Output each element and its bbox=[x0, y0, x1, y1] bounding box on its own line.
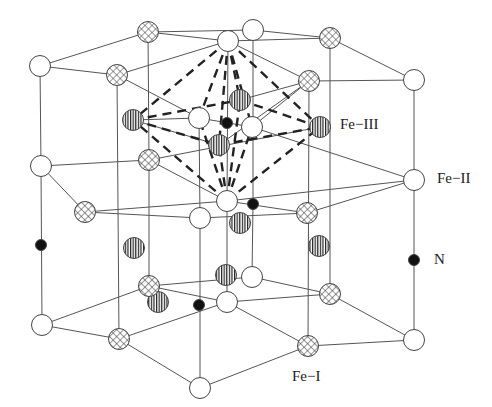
fe-iii-atom bbox=[123, 110, 144, 131]
fe-i-atom bbox=[320, 284, 341, 305]
bond-line bbox=[119, 339, 200, 388]
fe-ii-atom bbox=[32, 315, 53, 336]
bond-line bbox=[40, 32, 148, 66]
fe-ii-atom bbox=[190, 378, 211, 399]
bond-line bbox=[309, 80, 414, 81]
label-n: N bbox=[434, 251, 445, 268]
octahedron-edge bbox=[228, 41, 252, 127]
nitrogen-atom bbox=[36, 240, 47, 251]
fe-ii-atom bbox=[404, 170, 425, 191]
bond-line bbox=[85, 212, 200, 218]
nitrogen-atom bbox=[222, 118, 233, 129]
bond-line bbox=[227, 302, 308, 346]
bond-line bbox=[253, 30, 330, 38]
fe-ii-atom bbox=[404, 70, 425, 91]
bond-line bbox=[227, 294, 330, 302]
label-fe-iii: Fe−III bbox=[340, 116, 378, 133]
fe-iii-atom bbox=[230, 90, 251, 111]
bond-line bbox=[42, 325, 119, 339]
bond-line bbox=[252, 277, 330, 294]
fe-ii-atom bbox=[31, 156, 52, 177]
bond-line bbox=[330, 294, 414, 340]
label-fe-i: Fe−I bbox=[292, 368, 320, 385]
octahedron-edge bbox=[219, 41, 228, 145]
fe-iii-atom bbox=[124, 238, 145, 259]
fe-iii-atom bbox=[230, 213, 251, 234]
bond-line bbox=[308, 340, 414, 346]
bond-line bbox=[117, 41, 228, 75]
bond-line bbox=[148, 32, 228, 41]
fe-i-atom bbox=[138, 22, 159, 43]
bond-line bbox=[117, 75, 119, 339]
bond-line bbox=[40, 66, 117, 75]
nitrogen-atom bbox=[194, 300, 205, 311]
bond-line bbox=[119, 302, 227, 339]
fe-ii-atom bbox=[217, 292, 238, 313]
fe-i-atom bbox=[297, 203, 318, 224]
atom-sites bbox=[30, 20, 425, 399]
bond-line bbox=[227, 180, 414, 201]
fe-ii-atom bbox=[242, 117, 263, 138]
fe-ii-atom bbox=[217, 191, 238, 212]
bond-line bbox=[148, 32, 149, 160]
fe-i-atom bbox=[299, 71, 320, 92]
bond-line bbox=[252, 127, 414, 180]
fe-i-atom bbox=[107, 65, 128, 86]
fe-i-atom bbox=[75, 202, 96, 223]
octahedron-edge bbox=[227, 127, 320, 201]
fe-iii-atom bbox=[209, 135, 230, 156]
fe-ii-atom bbox=[242, 267, 263, 288]
bond-line bbox=[227, 201, 307, 213]
nitrogen-atom bbox=[409, 255, 420, 266]
fe-iii-atom bbox=[309, 236, 330, 257]
fe-i-atom bbox=[320, 28, 341, 49]
fe-i-atom bbox=[139, 150, 160, 171]
bond-line bbox=[228, 38, 330, 41]
fe-i-atom bbox=[109, 329, 130, 350]
fe-i-atom bbox=[139, 276, 160, 297]
bond-line bbox=[228, 41, 309, 81]
fe-ii-atom bbox=[189, 108, 210, 129]
fe-i-atom bbox=[298, 336, 319, 357]
bond-line bbox=[41, 160, 149, 166]
octahedron-edge bbox=[227, 100, 240, 201]
fe-ii-atom bbox=[218, 31, 239, 52]
nitrogen-atom bbox=[248, 199, 259, 210]
bond-line bbox=[148, 30, 253, 32]
fe-ii-atom bbox=[30, 56, 51, 77]
fe-ii-atom bbox=[404, 330, 425, 351]
bond-line bbox=[40, 66, 41, 166]
bond-line bbox=[330, 38, 414, 80]
bond-line bbox=[219, 81, 309, 145]
crystal-lattice-svg bbox=[0, 0, 492, 407]
bond-line bbox=[307, 180, 414, 213]
bond-line bbox=[42, 286, 149, 325]
fe-ii-atom bbox=[243, 20, 264, 41]
fe-iii-atom bbox=[216, 265, 237, 286]
label-fe-ii: Fe−II bbox=[437, 170, 470, 187]
bond-line bbox=[200, 213, 307, 218]
fe-ii-atom bbox=[190, 208, 211, 229]
fe-iii-atom bbox=[310, 117, 331, 138]
crystal-structure-diagram: Fe−III Fe−II N Fe−I bbox=[0, 0, 492, 407]
